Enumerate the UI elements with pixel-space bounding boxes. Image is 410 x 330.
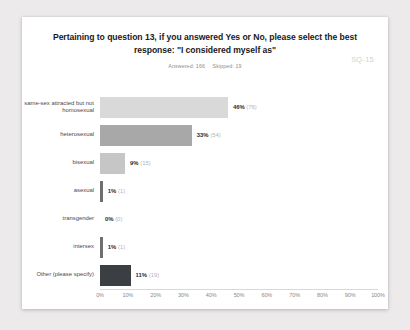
bar-value-label: 33% (54)	[192, 132, 221, 138]
bar-value-label: 46% (76)	[228, 104, 257, 110]
bar-segment	[100, 125, 192, 146]
table-row: Other (please specify)11% (19)	[22, 261, 388, 289]
axis-tick: 10%	[122, 292, 133, 298]
question-code-label: SQ-15	[351, 55, 374, 64]
table-row: heterosexual33% (54)	[22, 121, 388, 149]
category-label: same-sex attracted but not homosexual	[22, 100, 100, 115]
axis-tick: 30%	[178, 292, 189, 298]
bar-value-label: 1% (1)	[103, 188, 125, 194]
table-row: same-sex attracted but not homosexual46%…	[22, 93, 388, 121]
bar-segment	[100, 153, 125, 174]
bar-segment	[100, 97, 228, 118]
table-row: asexual1% (1)	[22, 177, 388, 205]
bar-zone: 46% (76)	[100, 93, 388, 121]
bar-zone: 0% (0)	[100, 205, 388, 233]
bar-value-label: 1% (1)	[103, 244, 125, 250]
bar-zone: 11% (19)	[100, 261, 388, 289]
bar-segment	[100, 265, 131, 286]
category-label: transgender	[22, 215, 100, 222]
category-label: asexual	[22, 187, 100, 194]
skipped-count: Skipped: 19	[213, 63, 242, 69]
axis-tick: 60%	[261, 292, 272, 298]
survey-result-card: Pertaining to question 13, if you answer…	[22, 17, 388, 309]
axis-tick: 90%	[345, 292, 356, 298]
x-axis-tick-labels: 0%10%20%30%40%50%60%70%80%90%100%	[100, 292, 378, 304]
response-summary: Answered: 166 Skipped: 19	[22, 63, 388, 69]
axis-tick: 80%	[317, 292, 328, 298]
table-row: bisexual9% (15)	[22, 149, 388, 177]
axis-tick: 40%	[206, 292, 217, 298]
category-label: Other (please specify)	[22, 271, 100, 278]
bar-zone: 1% (1)	[100, 233, 388, 261]
bar-zone: 33% (54)	[100, 121, 388, 149]
table-row: intersex1% (1)	[22, 233, 388, 261]
bar-value-label: 9% (15)	[125, 160, 151, 166]
axis-tick: 50%	[234, 292, 245, 298]
answered-count: Answered: 166	[168, 63, 205, 69]
axis-tick: 70%	[289, 292, 300, 298]
category-label: bisexual	[22, 159, 100, 166]
category-label: heterosexual	[22, 131, 100, 138]
bar-value-label: 11% (19)	[131, 272, 160, 278]
bar-zone: 9% (15)	[100, 149, 388, 177]
bar-zone: 1% (1)	[100, 177, 388, 205]
category-label: intersex	[22, 243, 100, 250]
axis-tick: 100%	[371, 292, 385, 298]
page-title: Pertaining to question 13, if you answer…	[22, 31, 388, 56]
axis-tick: 0%	[96, 292, 104, 298]
bar-chart-plot: same-sex attracted but not homosexual46%…	[22, 89, 388, 309]
axis-tick: 20%	[150, 292, 161, 298]
table-row: transgender0% (0)	[22, 205, 388, 233]
chart-header: Pertaining to question 13, if you answer…	[22, 17, 388, 69]
bar-value-label: 0% (0)	[100, 216, 122, 222]
x-axis-line	[100, 289, 378, 290]
